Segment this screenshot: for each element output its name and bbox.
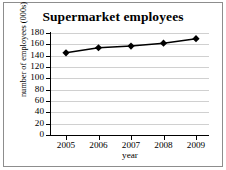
- y-tick-label-text: 160: [18, 39, 44, 48]
- x-axis-title: year: [51, 150, 209, 160]
- data-point-marker: [62, 49, 69, 56]
- y-tick-label-text: 100: [18, 73, 44, 82]
- y-tick-label-text: 180: [18, 28, 44, 37]
- y-tick-label-text: 60: [18, 96, 44, 105]
- y-tick-label-text: 0: [18, 130, 44, 139]
- data-series-line: [51, 33, 209, 135]
- y-tick-mark: [46, 44, 50, 45]
- y-axis-line: [50, 32, 51, 136]
- y-tick-mark: [46, 33, 50, 34]
- y-tick-mark: [46, 78, 50, 79]
- y-tick-mark: [46, 101, 50, 102]
- x-axis-line: [50, 135, 209, 136]
- chart-title: Supermarket employees: [0, 9, 226, 25]
- y-tick-mark: [46, 135, 50, 136]
- y-tick-mark: [46, 112, 50, 113]
- y-tick-label-text: 40: [18, 107, 44, 116]
- y-tick-mark: [46, 67, 50, 68]
- y-tick-mark: [46, 90, 50, 91]
- y-tick-mark: [46, 124, 50, 125]
- data-point-marker: [192, 35, 199, 42]
- x-tick-label: 2007: [113, 140, 149, 150]
- x-tick-label: 2009: [178, 140, 214, 150]
- data-point-marker: [127, 42, 134, 49]
- y-tick-label-text: 80: [18, 85, 44, 94]
- y-tick-mark: [46, 56, 50, 57]
- x-tick-label: 2005: [48, 140, 84, 150]
- plot-area: [51, 33, 209, 135]
- y-tick-label-text: 20: [18, 119, 44, 128]
- data-point-marker: [160, 40, 167, 47]
- data-point-marker: [95, 44, 102, 51]
- x-tick-label: 2008: [146, 140, 182, 150]
- y-tick-label-text: 120: [18, 62, 44, 71]
- y-tick-label-text: 140: [18, 51, 44, 60]
- chart-figure: Supermarket employees number of employee…: [0, 0, 226, 170]
- x-tick-label: 2006: [81, 140, 117, 150]
